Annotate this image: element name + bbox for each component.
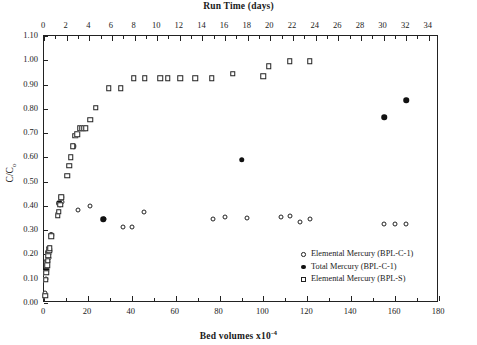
top-axis-tick xyxy=(180,36,181,41)
data-point xyxy=(68,155,74,161)
data-point xyxy=(70,144,76,150)
top-axis-tick xyxy=(248,36,249,41)
top-axis-tick-label: 12 xyxy=(175,20,184,30)
y-axis-tick xyxy=(44,36,48,37)
x-axis-tick xyxy=(176,296,177,301)
top-axis-tick xyxy=(417,36,418,39)
top-axis-tick-label: 28 xyxy=(356,20,365,30)
data-point xyxy=(209,76,215,82)
top-axis-tick-label: 6 xyxy=(109,20,113,30)
top-axis-tick xyxy=(361,36,362,41)
data-point xyxy=(43,277,49,283)
data-point xyxy=(64,173,70,179)
top-axis-tick xyxy=(372,36,373,39)
data-point xyxy=(244,216,249,221)
data-point xyxy=(193,76,199,82)
x-axis-tick xyxy=(417,298,418,301)
x-axis-tick-label: 140 xyxy=(344,306,357,316)
data-point xyxy=(87,117,93,123)
data-point xyxy=(287,213,292,218)
legend-symbol-icon xyxy=(300,277,307,282)
top-axis-tick-label: 10 xyxy=(152,20,161,30)
data-point xyxy=(297,219,302,224)
y-axis-tick-label: 0.00 xyxy=(10,297,38,307)
top-axis-tick-label: 34 xyxy=(424,20,433,30)
data-point xyxy=(307,59,313,65)
x-axis-tick-label: 40 xyxy=(127,306,136,316)
data-point xyxy=(121,224,126,229)
y-axis-tick xyxy=(44,60,48,61)
legend-item-label: Elemental Mercury (BPL-C-1) xyxy=(311,248,413,261)
top-axis-tick xyxy=(55,36,56,39)
top-axis-tick-label: 30 xyxy=(378,20,387,30)
top-axis-tick xyxy=(350,36,351,39)
top-axis-tick xyxy=(202,36,203,41)
top-axis-tick xyxy=(282,36,283,39)
x-axis-tick xyxy=(307,296,308,301)
data-point xyxy=(75,132,81,138)
top-axis-tick xyxy=(338,36,339,41)
data-point xyxy=(57,202,63,208)
x-axis-tick xyxy=(220,296,221,301)
data-point xyxy=(158,76,164,82)
top-axis-tick-label: 32 xyxy=(401,20,410,30)
y-axis-tick xyxy=(44,303,48,304)
legend-item-label: Elemental Mercury (BPL-S) xyxy=(311,273,405,286)
data-point xyxy=(261,73,267,79)
data-point xyxy=(59,195,65,201)
data-point xyxy=(56,209,62,215)
y-axis-tick-label: 0.60 xyxy=(10,151,38,161)
legend-item: Elemental Mercury (BPL-C-1) xyxy=(300,248,413,261)
data-point xyxy=(382,222,387,227)
top-axis-tick xyxy=(395,36,396,39)
data-point xyxy=(381,115,387,121)
top-axis-tick-label: 22 xyxy=(288,20,297,30)
top-axis-tick xyxy=(101,36,102,39)
y-axis-tick xyxy=(44,230,48,231)
data-point xyxy=(142,76,148,82)
top-axis-title: Run Time (days) xyxy=(0,1,477,11)
data-point xyxy=(93,105,99,111)
x-axis-tick-label: 160 xyxy=(388,306,401,316)
data-point xyxy=(307,217,312,222)
top-axis-tick xyxy=(429,36,430,41)
x-axis-tick xyxy=(373,298,374,301)
y-axis-tick xyxy=(44,182,48,183)
x-axis-tick xyxy=(285,298,286,301)
y-axis-tick-label: 0.30 xyxy=(10,224,38,234)
legend: Elemental Mercury (BPL-C-1)Total Mercury… xyxy=(300,248,413,286)
x-axis-tick-label: 120 xyxy=(300,306,313,316)
top-axis-tick-label: 16 xyxy=(220,20,229,30)
x-axis-tick xyxy=(198,298,199,301)
y-axis-tick-label: 0.10 xyxy=(10,273,38,283)
data-point xyxy=(66,163,72,169)
legend-item: Elemental Mercury (BPL-S) xyxy=(300,273,413,286)
data-point xyxy=(118,85,124,91)
top-axis-tick xyxy=(406,36,407,41)
top-axis-tick xyxy=(135,36,136,41)
x-axis-tick-label: 100 xyxy=(256,306,269,316)
top-axis-tick xyxy=(112,36,113,41)
data-point xyxy=(287,59,293,65)
y-axis-title-subscript: o xyxy=(10,163,18,167)
x-axis-tick xyxy=(242,298,243,301)
data-point xyxy=(44,270,50,276)
top-axis-tick xyxy=(168,36,169,39)
data-point xyxy=(129,224,134,229)
top-axis-tick xyxy=(304,36,305,39)
y-axis-tick-label: 0.50 xyxy=(10,176,38,186)
data-point xyxy=(45,258,51,264)
data-point xyxy=(403,98,409,104)
top-axis-tick xyxy=(146,36,147,39)
x-axis-tick xyxy=(66,298,67,301)
top-axis-tick xyxy=(123,36,124,39)
top-axis-tick-label: 18 xyxy=(242,20,251,30)
top-axis-tick xyxy=(225,36,226,41)
y-axis-tick-label: 0.90 xyxy=(10,79,38,89)
x-axis-tick-label: 180 xyxy=(432,306,445,316)
x-axis-tick-label: 80 xyxy=(214,306,223,316)
x-axis-tick-label: 60 xyxy=(170,306,179,316)
x-axis-tick xyxy=(263,296,264,301)
top-axis-tick-label: 8 xyxy=(131,20,135,30)
x-axis-tick xyxy=(329,298,330,301)
